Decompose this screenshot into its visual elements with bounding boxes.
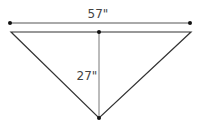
triangle-shape xyxy=(11,32,191,118)
dimension-endpoint-left xyxy=(8,21,12,25)
triangle-diagram: 57" 27" xyxy=(0,0,202,128)
width-label: 57" xyxy=(88,7,109,21)
diagram-canvas: 57" 27" xyxy=(0,0,202,128)
dimension-endpoint-right xyxy=(188,21,192,25)
top-midpoint-dot xyxy=(97,30,101,34)
apex-dot xyxy=(97,116,101,120)
height-label: 27" xyxy=(77,69,98,83)
